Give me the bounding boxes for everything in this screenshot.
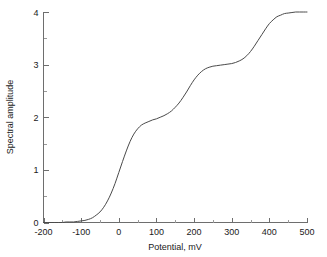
x-tick-label: 0 [116,227,121,237]
y-tick-label: 2 [33,113,38,123]
x-tick-label: 100 [149,227,164,237]
y-tick-label: 3 [33,60,38,70]
x-tick-label: 200 [187,227,202,237]
x-axis-title: Potential, mV [148,242,202,252]
y-tick-label: 0 [33,218,38,228]
chart-background [0,0,327,257]
x-tick-label: -100 [72,227,90,237]
x-tick-label: 300 [224,227,239,237]
spectral-amplitude-chart: -200-1000100200300400500 01234 Potential… [0,0,327,257]
y-axis-title: Spectral amplitude [5,80,15,155]
x-tick-label: -200 [34,227,52,237]
x-tick-label: 400 [262,227,277,237]
y-tick-label: 1 [33,165,38,175]
x-tick-label: 500 [299,227,314,237]
y-tick-label: 4 [33,8,38,18]
